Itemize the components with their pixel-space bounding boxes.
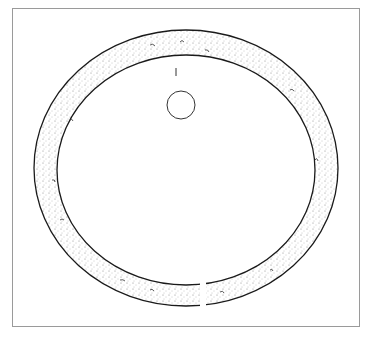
ring-drawing [0,0,371,337]
cross-section-outline [167,91,195,119]
ring-body [34,30,338,306]
